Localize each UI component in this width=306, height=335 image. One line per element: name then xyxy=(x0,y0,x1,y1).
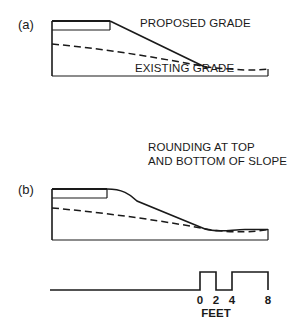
grading-cross-section-figure: (a) PROPOSED GRADE EXISTING GRADE (b) RO… xyxy=(0,0,306,335)
panel-b-rounding-label-line2: AND BOTTOM OF SLOPE xyxy=(148,155,287,167)
scale-bar-square-wave xyxy=(50,272,268,290)
panel-b-existing-grade-dashed xyxy=(52,208,268,232)
panel-a-proposed-grade-label: PROPOSED GRADE xyxy=(140,17,251,29)
scale-tick-label-8: 8 xyxy=(265,294,272,306)
scale-unit-label: FEET xyxy=(201,307,230,319)
scale-tick-label-2: 2 xyxy=(213,294,219,306)
panel-b-tag: (b) xyxy=(18,182,34,197)
panel-a-tag: (a) xyxy=(18,17,34,32)
panel-b-rounding-label-line1: ROUNDING AT TOP xyxy=(148,141,255,153)
scale-bar: 0 2 4 8 FEET xyxy=(50,272,272,319)
panel-a-existing-grade-label: EXISTING GRADE xyxy=(135,62,234,74)
panel-a: (a) PROPOSED GRADE EXISTING GRADE xyxy=(18,17,268,76)
scale-tick-label-4: 4 xyxy=(229,294,236,306)
scale-tick-label-0: 0 xyxy=(197,294,203,306)
panel-b-proposed-rounded-slope xyxy=(107,189,268,231)
panel-b: (b) ROUNDING AT TOP AND BOTTOM OF SLOPE xyxy=(18,141,287,240)
